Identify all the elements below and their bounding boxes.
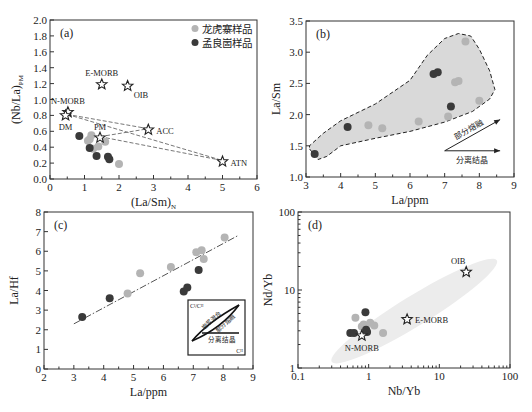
x-axis-label: Nb/Yb — [388, 384, 421, 398]
data-point-longhuzhai — [378, 124, 386, 132]
panel-b: 34567891.01.52.02.53.03.5La/ppmLa/Sm(b)部… — [269, 15, 517, 207]
x-tick-label: 5 — [131, 371, 137, 383]
x-tick-label: 9 — [250, 371, 256, 383]
y-tick-label: 2.0 — [289, 109, 303, 121]
y-axis-label: La/Hf — [7, 276, 21, 305]
panel-label: (c) — [54, 218, 67, 232]
panel-c: 23456789012345678La/ppmLa/Hf(c)Cᴵ/CᴴCᴴ岩浆… — [7, 206, 256, 399]
reference-label: ATN — [231, 158, 248, 168]
y-tick-label: 7 — [36, 226, 42, 238]
data-point-longhuzhai — [167, 263, 175, 271]
data-point-menglianggu — [350, 329, 358, 337]
reference-label: E-MORB — [415, 315, 448, 325]
process-arrow-label: 分离结晶 — [456, 155, 488, 165]
x-tick-label: 4 — [338, 179, 344, 191]
y-tick-label: 3.5 — [289, 15, 303, 27]
y-tick-label: 1 — [290, 362, 296, 374]
reference-star-icon — [97, 79, 108, 89]
data-point-menglianggu — [106, 294, 114, 302]
data-point-longhuzhai — [94, 142, 102, 150]
data-point-longhuzhai — [221, 234, 229, 242]
data-point-longhuzhai — [455, 77, 463, 85]
legend-marker-menglianggu — [192, 39, 199, 46]
data-point-longhuzhai — [379, 329, 387, 337]
x-tick-label: 2 — [116, 181, 122, 193]
mixing-line — [100, 129, 148, 137]
y-tick-label: 100 — [279, 206, 296, 218]
data-point-menglianggu — [434, 68, 442, 76]
x-tick-label: 0 — [47, 181, 53, 193]
data-point-longhuzhai — [475, 97, 483, 105]
x-tick-label: 3 — [303, 179, 309, 191]
inset-x-label: Cᴴ — [236, 348, 243, 354]
data-point-menglianggu — [447, 102, 455, 110]
x-tick-label: 10 — [434, 370, 446, 382]
data-point-longhuzhai — [415, 117, 423, 125]
arrowhead-icon — [494, 148, 500, 153]
data-point-longhuzhai — [461, 38, 469, 46]
figure: 01234560.00.20.40.60.81.01.21.41.61.82.0… — [0, 0, 532, 412]
data-point-menglianggu — [361, 308, 369, 316]
data-point-longhuzhai — [444, 112, 452, 120]
y-tick-label: 0.4 — [33, 141, 47, 153]
data-point-longhuzhai — [115, 160, 123, 168]
data-point-menglianggu — [93, 152, 101, 160]
data-point-menglianggu — [75, 132, 83, 140]
y-tick-label: 3.0 — [289, 46, 303, 58]
legend-label: 龙虎寨样品 — [202, 23, 252, 35]
inset-y-label: Cᴵ/Cᴴ — [190, 303, 204, 309]
y-tick-label: 0.6 — [33, 125, 47, 137]
y-tick-label: 1.5 — [289, 140, 303, 152]
mantle-array-band — [324, 248, 505, 375]
data-point-longhuzhai — [124, 289, 132, 297]
reference-star-icon — [122, 81, 132, 91]
x-tick-label: 6 — [161, 371, 167, 383]
panel-label: (b) — [316, 27, 330, 41]
x-axis-label: La/ppm — [391, 193, 429, 207]
x-axis-label: La/ppm — [130, 385, 168, 399]
y-axis-label: (Nb/La)PM — [9, 74, 25, 124]
panel-label: (d) — [308, 218, 322, 232]
x-tick-label: 5 — [220, 181, 226, 193]
y-tick-label: 0.8 — [33, 109, 47, 121]
y-tick-label: 1.2 — [33, 78, 47, 90]
y-tick-label: 2 — [36, 324, 42, 336]
x-tick-label: 3 — [151, 181, 157, 193]
y-tick-label: 1 — [36, 343, 42, 355]
data-point-menglianggu — [105, 155, 113, 163]
data-point-longhuzhai — [200, 255, 208, 263]
reference-label: DM — [59, 122, 73, 132]
reference-star-icon — [217, 156, 227, 166]
x-tick-label: 5 — [373, 179, 379, 191]
data-point-menglianggu — [183, 284, 191, 292]
data-point-longhuzhai — [351, 314, 359, 322]
data-point-menglianggu — [78, 313, 86, 321]
y-tick-label: 0.2 — [33, 157, 47, 169]
x-tick-label: 4 — [101, 371, 107, 383]
panel-label: (a) — [60, 26, 73, 40]
x-tick-label: 100 — [502, 370, 519, 382]
x-tick-label: 3 — [71, 371, 77, 383]
reference-star-icon — [143, 124, 154, 134]
y-tick-label: 1.0 — [33, 94, 47, 106]
y-axis-label: La/Sm — [269, 82, 283, 115]
x-tick-label: 4 — [185, 181, 191, 193]
inset-flat-label: 分离结晶 — [208, 335, 236, 344]
y-tick-label: 4 — [36, 285, 42, 297]
y-axis-label-subscript: PM — [17, 74, 25, 85]
y-tick-label: 0 — [36, 363, 42, 375]
y-tick-label: 1.8 — [33, 30, 47, 42]
y-tick-label: 6 — [36, 245, 42, 257]
y-tick-label: 10 — [284, 284, 296, 296]
data-point-longhuzhai — [136, 269, 144, 277]
data-point-menglianggu — [344, 123, 352, 131]
y-tick-label: 1.4 — [33, 62, 47, 74]
y-tick-label: 2.0 — [33, 14, 47, 26]
reference-label: PM — [94, 122, 107, 132]
panel-d: 0.1110100110100Nb/YbNd/Yb(d)N-MORBE-MORB… — [261, 206, 519, 398]
reference-label: N-MORB — [345, 343, 379, 353]
y-tick-label: 1.6 — [33, 46, 47, 58]
x-tick-label: 1 — [366, 370, 372, 382]
y-tick-label: 0.0 — [33, 173, 47, 185]
x-tick-label: 6 — [254, 181, 260, 193]
